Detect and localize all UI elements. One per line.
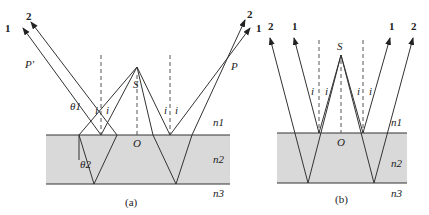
panel-a: 1 2 2 1 P' P S O i i i i θ1 θ2 n1 n2 n3 …	[5, 8, 262, 209]
theta2-label: θ2	[80, 158, 91, 170]
theta1-label: θ1	[70, 100, 81, 112]
ray-label: 1	[292, 20, 298, 32]
ray-label: 2	[247, 8, 253, 20]
source-label: S	[337, 40, 343, 52]
angle-label: i	[369, 85, 372, 97]
caption-a: (a)	[125, 196, 138, 209]
panel-b: 2 1 1 2 S O i i i i n1 n2 n3 (b)	[268, 20, 417, 206]
thin-film-diagram: 1 2 2 1 P' P S O i i i i θ1 θ2 n1 n2 n3 …	[0, 0, 429, 215]
angle-label: i	[164, 104, 167, 116]
origin-label: O	[133, 137, 141, 149]
angle-label: i	[325, 85, 328, 97]
ray-label: 2	[411, 20, 417, 32]
ray-label: 1	[5, 22, 11, 34]
angle-label: i	[95, 104, 98, 116]
medium-label: n1	[213, 116, 224, 128]
source-label: S	[133, 78, 139, 90]
medium-label: n3	[391, 187, 403, 199]
ray-label: 1	[256, 22, 262, 34]
point-label: P'	[24, 58, 35, 70]
medium-label: n2	[213, 153, 225, 165]
caption-b: (b)	[335, 193, 348, 206]
angle-label: i	[175, 104, 178, 116]
angle-label: i	[106, 104, 109, 116]
angle-label: i	[357, 85, 360, 97]
ray-label: 1	[389, 20, 395, 32]
point-label: P	[230, 60, 238, 72]
ray-label: 2	[26, 10, 32, 22]
origin-label: O	[337, 136, 345, 148]
angle-label: i	[311, 85, 314, 97]
medium-label: n3	[213, 187, 225, 199]
medium-label: n1	[391, 116, 402, 128]
ray-label: 2	[268, 20, 274, 32]
medium-label: n2	[391, 157, 403, 169]
